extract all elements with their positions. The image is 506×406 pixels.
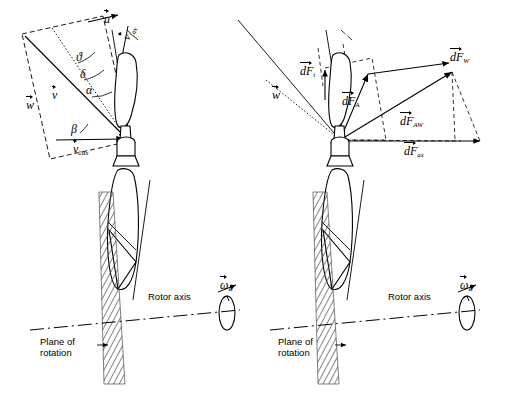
label-w: w bbox=[26, 98, 34, 113]
vector-v2ax bbox=[56, 139, 124, 140]
force-closure-dashes bbox=[340, 72, 480, 141]
label-u: u bbox=[104, 12, 110, 27]
label-angle-delta: δ bbox=[80, 67, 86, 82]
figure-canvas: v2ax v w u v1ax ϑ δ α β Rotor axis Plane… bbox=[0, 0, 506, 406]
label-dFAW: dFAW bbox=[400, 114, 423, 129]
plane-of-rotation-label-left: Plane ofrotation bbox=[40, 336, 75, 358]
right-panel-graphics bbox=[238, 20, 480, 384]
vector-dFW bbox=[368, 63, 449, 74]
label-angle-beta: β bbox=[71, 122, 77, 137]
blade-axis-dash-right bbox=[341, 30, 352, 40]
label-dFA: dFA bbox=[342, 94, 360, 109]
label-dFW: dFW bbox=[450, 50, 469, 65]
left-panel-graphics bbox=[22, 15, 240, 384]
label-dFax: dFax bbox=[404, 144, 424, 159]
rotor-axis-label-left: Rotor axis bbox=[148, 291, 191, 302]
rotor-axis-line bbox=[30, 310, 240, 330]
omega-r-label-left: ωR bbox=[220, 278, 233, 293]
rotor-axis-line-right bbox=[270, 310, 480, 330]
label-angle-alpha: α bbox=[86, 83, 92, 98]
label-v2ax: v2ax bbox=[73, 142, 88, 157]
label-w-right: w bbox=[272, 88, 280, 103]
omega-rotation-symbol-right bbox=[459, 296, 475, 330]
omega-r-label-right: ωR bbox=[460, 278, 473, 293]
label-dFt: dFt bbox=[300, 64, 315, 79]
omega-rotation-symbol bbox=[219, 296, 235, 330]
plane-of-rotation-label-right: Plane ofrotation bbox=[278, 336, 313, 358]
blade-section-upper bbox=[115, 53, 138, 140]
label-angle-theta: ϑ bbox=[76, 50, 82, 65]
label-v: v bbox=[52, 88, 57, 103]
hub bbox=[113, 137, 139, 166]
hub-right bbox=[327, 137, 353, 166]
rotor-axis-label-right: Rotor axis bbox=[388, 291, 431, 302]
